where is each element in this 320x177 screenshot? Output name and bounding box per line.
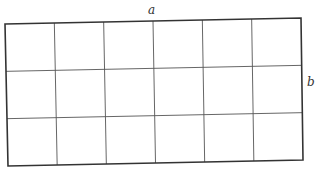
vertical-grid-line [202,20,204,162]
side-label-b: b [307,75,315,89]
vertical-grid-line [104,22,107,164]
grid-diagram: a b [0,0,320,177]
side-label-a: a [148,3,155,17]
vertical-grid-line [153,21,156,163]
vertical-grid-line [54,23,57,165]
grid-lines [6,19,302,165]
vertical-grid-line [252,19,254,161]
